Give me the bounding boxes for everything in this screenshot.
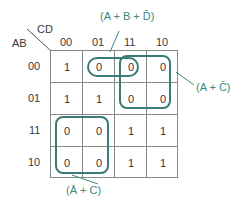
leader-line-a-b-dbar (110, 31, 119, 52)
corner-diagonal (27, 29, 51, 51)
leader-line-abar-c (72, 175, 98, 184)
leader-line-a-cbar (176, 72, 194, 85)
leader-lines (0, 0, 243, 211)
